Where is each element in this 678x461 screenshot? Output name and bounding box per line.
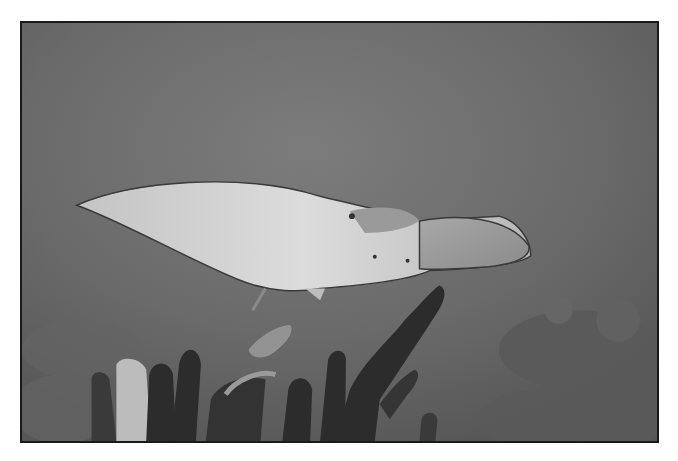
photo-frame <box>20 21 659 443</box>
underwater-photo <box>22 23 657 441</box>
